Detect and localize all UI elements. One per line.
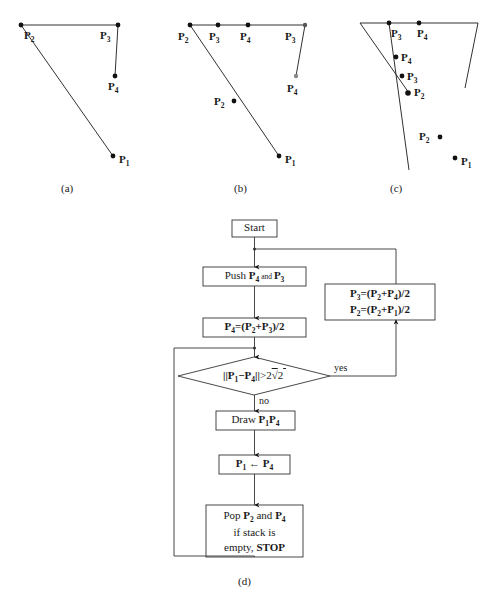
panel-b-label-p1: P1 bbox=[285, 153, 295, 168]
panel-b-label-p2-mid: P2 bbox=[214, 95, 224, 110]
flow-update-line1: P3=(P2+P4)/2 P3=(P2+P4)/2 bbox=[325, 287, 435, 303]
panel-c-label-p3-top: P3 bbox=[391, 27, 401, 42]
panel-a-label-p3: P3 bbox=[100, 29, 110, 44]
panel-a-label-p1: P1 bbox=[119, 153, 129, 168]
flow-no-label: no bbox=[259, 395, 269, 406]
flow-decision-label: ||P1−P4||>2√2 ||P1−P4||>2√2 bbox=[196, 369, 313, 385]
flow-pop-line3: empty, STOP bbox=[206, 540, 303, 555]
flow-update-box-label: P3=(P2+P4)/2 P3=(P2+P4)/2 P2=(P2+P1)/2 P… bbox=[325, 287, 435, 319]
flow-push-box-label: Push P4 and P3 bbox=[203, 269, 306, 285]
panel-c-label-p1: P1 bbox=[461, 155, 471, 170]
panel-a-label-p4: P4 bbox=[108, 80, 118, 95]
panel-b-label-p3-mid1: P3 bbox=[209, 30, 219, 45]
flow-assign-p4-box-label: P4=(P2+P3)/2 P4=(P2+P3)/2 bbox=[203, 320, 306, 336]
flow-yes-label: yes bbox=[334, 362, 347, 373]
flow-update-line2: P2=(P2+P1)/2 P2=(P2+P1)/2 bbox=[325, 303, 435, 319]
panel-d-caption: (d) bbox=[238, 575, 251, 587]
panel-b-label-p4-mid: P4 bbox=[240, 30, 250, 45]
panel-b-label-p4-low: P4 bbox=[287, 82, 297, 97]
panel-c-caption: (c) bbox=[390, 182, 402, 194]
flow-assign-p1-box-label: P1 ← P4 P1 ← P4 bbox=[219, 457, 290, 473]
panel-c-label-p2-upper: P2 bbox=[414, 86, 424, 101]
panel-a-caption: (a) bbox=[61, 182, 73, 194]
flow-pop-line2: if stack is bbox=[206, 525, 303, 540]
flow-draw-box-label: Draw P1P4 Draw P1P4 bbox=[216, 413, 295, 429]
panel-a-label-p2: P2 bbox=[24, 29, 34, 44]
figure-container: P2 P3 P4 P1 (a) P2 P3 P4 P3 P4 P2 P1 (b)… bbox=[0, 0, 486, 599]
panel-b-label-p3-right: P3 bbox=[285, 30, 295, 45]
panel-c-label-p4-second: P4 bbox=[401, 51, 411, 66]
panel-c-label-p3-second: P3 bbox=[407, 70, 417, 85]
flow-start-box-label: Start bbox=[232, 221, 277, 234]
panel-b-caption: (b) bbox=[234, 182, 247, 194]
panel-b-label-p2-top: P2 bbox=[178, 30, 188, 45]
flow-pop-box-label: Pop P2 and P4 Pop P2 and P4 if stack is … bbox=[206, 508, 303, 555]
flow-pop-line1: Pop P2 and P4 Pop P2 and P4 bbox=[206, 508, 303, 525]
panel-c-label-p2-lower: P2 bbox=[419, 130, 429, 145]
panel-c-label-p4-top: P4 bbox=[417, 27, 427, 42]
